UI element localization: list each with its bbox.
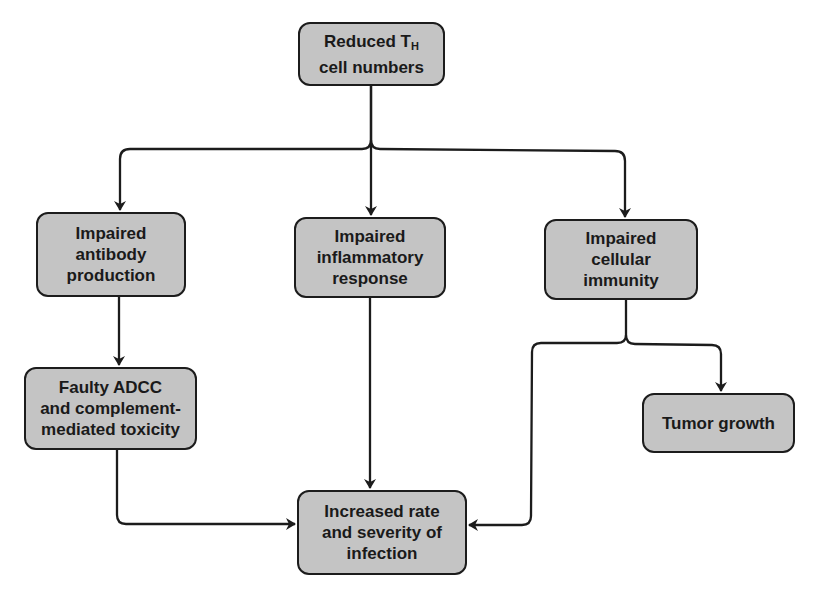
label-main-text: Reduced T [324, 32, 411, 51]
node-label-line: cell numbers [319, 57, 424, 78]
node-label-line: antibody [67, 244, 156, 265]
edge-cellular-to-infection [469, 335, 626, 525]
node-impaired-cellular-immunity: Impaired cellular immunity [544, 219, 698, 300]
edge-top-to-antibody [120, 140, 371, 210]
node-reduced-th-cell-numbers: Reduced TH cell numbers [298, 22, 445, 86]
node-label-line: and complement- [40, 398, 181, 419]
node-label-line: response [317, 268, 424, 289]
node-label-line: inflammatory [317, 247, 424, 268]
node-label-line: Impaired [317, 226, 424, 247]
node-label-line: Faulty ADCC [40, 377, 181, 398]
edge-top-to-cellular [371, 140, 625, 217]
node-label-line: immunity [583, 270, 659, 291]
edge-cellular-to-tumor [626, 335, 721, 391]
node-label-line: Increased rate [322, 501, 442, 522]
node-label-line: mediated toxicity [40, 419, 181, 440]
node-impaired-inflammatory-response: Impaired inflammatory response [294, 217, 446, 298]
node-increased-infection: Increased rate and severity of infection [297, 490, 467, 575]
node-faulty-adcc: Faulty ADCC and complement- mediated tox… [24, 367, 197, 450]
node-impaired-antibody-production: Impaired antibody production [36, 212, 186, 297]
node-label-line: Tumor growth [662, 413, 775, 434]
node-label-line: infection [322, 543, 442, 564]
node-label-line: Impaired [67, 223, 156, 244]
node-label-line: and severity of [322, 522, 442, 543]
label-subscript: H [411, 40, 419, 52]
node-tumor-growth: Tumor growth [642, 393, 795, 453]
node-label-line: cellular [583, 249, 659, 270]
node-label-line: production [67, 265, 156, 286]
node-label-line: Impaired [583, 228, 659, 249]
node-label-line: Reduced TH [319, 31, 424, 57]
edge-adcc-to-infection [117, 450, 295, 524]
